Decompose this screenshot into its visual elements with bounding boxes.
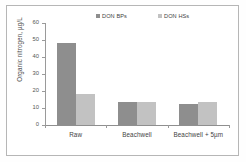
bar [118,102,137,125]
y-tick-label: 50 [33,36,39,42]
chart-legend: DON BPs DON HSs [80,13,220,23]
x-tick [168,125,169,128]
x-tick-label: Beachwell [106,131,167,138]
y-tick-label: 40 [33,53,39,59]
legend-item-don-bps: DON BPs [96,13,127,19]
bar [76,94,95,125]
bar [179,104,198,125]
x-tick-label: Raw [45,131,106,138]
legend-label-don-bps: DON BPs [102,13,127,19]
y-tick-label: 30 [33,70,39,76]
x-tick [45,125,46,128]
y-tick-label: 10 [33,104,39,110]
bar [198,102,217,125]
y-tick-label: 0 [36,121,39,127]
x-tick [229,125,230,128]
bar [57,43,76,125]
x-tick-label: Beachwell + 5µm [168,131,229,138]
x-tick [106,125,107,128]
bar [137,102,156,125]
bar-group [168,23,229,125]
y-axis-title: Organic nitrogen, µg/L [16,5,23,95]
legend-swatch-don-bps [96,14,100,18]
chart-figure: Organic nitrogen, µg/L DON BPs DON HSs 0… [0,0,246,162]
y-tick-label: 60 [33,19,39,25]
legend-label-don-hss: DON HSs [164,13,189,19]
y-tick-label: 20 [33,87,39,93]
legend-item-don-hss: DON HSs [158,13,189,19]
legend-swatch-don-hss [158,14,162,18]
bar-group [45,23,106,125]
x-axis-line [45,125,229,126]
plot-area: 0102030405060 RawBeachwellBeachwell + 5µ… [45,23,229,125]
bar-group [106,23,167,125]
